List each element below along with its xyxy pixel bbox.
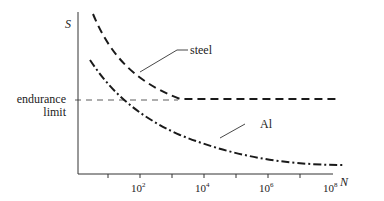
endurance-label-line1: endurance	[17, 92, 66, 106]
x-axis-label: N	[339, 175, 349, 189]
x-tick-label-1e6: 106	[259, 181, 274, 194]
endurance-label-line2: limit	[43, 105, 66, 119]
aluminum-curve	[90, 60, 345, 165]
x-tick-label-1e2: 102	[131, 181, 146, 194]
steel-leader-line	[140, 50, 188, 72]
aluminum-label: Al	[260, 117, 273, 131]
x-axis-ticks	[108, 174, 300, 178]
x-tick-label-1e8: 108	[323, 181, 338, 194]
aluminum-leader-line	[220, 124, 245, 138]
sn-diagram: 102 104 106 108 S N endurance limit stee…	[0, 0, 384, 201]
steel-curve	[93, 14, 336, 99]
y-axis-label: S	[65, 17, 71, 31]
steel-label: steel	[190, 43, 213, 57]
x-tick-label-1e4: 104	[195, 181, 210, 194]
